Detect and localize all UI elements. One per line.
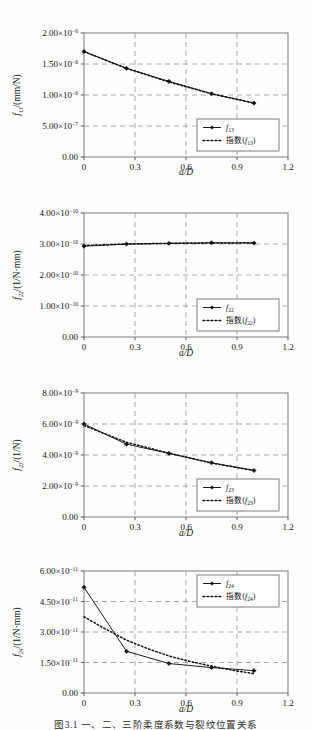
ytick-label: 8.00×10−9 — [42, 388, 78, 398]
ytick-label: 2.00×10−6 — [42, 28, 78, 38]
chart-f22: 00.30.60.91.20.001.00×10−102.00×10−103.0… — [0, 178, 312, 358]
xtick-label: 0.3 — [129, 342, 141, 352]
ytick-label: 3.00×10−11 — [40, 627, 79, 637]
y-axis-label: f13/(mm/N) — [12, 74, 24, 115]
ytick-label: 1.50×10−6 — [42, 59, 78, 69]
ytick-label: 4.00×10−9 — [42, 450, 78, 460]
ytick-label: 1.50×10−11 — [40, 657, 79, 667]
figure-container: 00.30.60.91.20.005.00×10−71.00×10−61.50×… — [0, 0, 312, 730]
plot-f23: 00.30.60.91.20.002.00×10−94.00×10−96.00×… — [0, 358, 312, 538]
chart-f13: 00.30.60.91.20.005.00×10−71.00×10−61.50×… — [0, 0, 312, 178]
legend-box — [197, 299, 279, 331]
plot-f24: 00.30.60.91.20.001.50×10−113.00×10−114.5… — [0, 538, 312, 716]
chart-f24: 00.30.60.91.20.001.50×10−113.00×10−114.5… — [0, 538, 312, 716]
x-axis-label: a/D — [179, 704, 193, 714]
figure-caption: 图3.1 一、二、三阶柔度系数与裂纹位置关系 — [0, 719, 312, 730]
data-point-marker — [167, 661, 171, 665]
legend-box — [197, 479, 279, 511]
series-line-data — [84, 424, 254, 471]
series-line-trend — [84, 426, 254, 471]
y-axis-label: f24/(1/N·mm) — [12, 607, 24, 656]
xtick-label: 0 — [82, 342, 87, 352]
x-axis-label: a/D — [179, 528, 193, 538]
ytick-label: 4.00×10−10 — [39, 208, 78, 218]
xtick-label: 0 — [82, 522, 87, 532]
xtick-label: 0 — [82, 162, 87, 172]
legend-box — [197, 119, 279, 151]
ytick-label: 0.00 — [62, 688, 78, 698]
ytick-label: 0.00 — [62, 512, 78, 522]
xtick-label: 0.9 — [231, 698, 243, 708]
data-point-marker — [252, 669, 256, 673]
xtick-label: 1.2 — [282, 698, 293, 708]
ytick-label: 2.00×10−10 — [39, 270, 78, 280]
legend-box — [197, 575, 279, 607]
plot-f13: 00.30.60.91.20.005.00×10−71.00×10−61.50×… — [0, 0, 312, 178]
xtick-label: 1.2 — [282, 342, 293, 352]
ytick-label: 2.00×10−9 — [42, 481, 78, 491]
xtick-label: 0.3 — [129, 162, 141, 172]
ytick-label: 1.00×10−6 — [42, 90, 78, 100]
ytick-label: 3.00×10−10 — [39, 239, 78, 249]
xtick-label: 0.9 — [231, 522, 243, 532]
xtick-label: 0 — [82, 698, 87, 708]
y-axis-label: f23/(1/N) — [12, 439, 24, 470]
xtick-label: 1.2 — [282, 162, 293, 172]
xtick-label: 0.3 — [129, 522, 141, 532]
xtick-label: 0.9 — [231, 162, 243, 172]
ytick-label: 0.00 — [62, 332, 78, 342]
x-axis-label: a/D — [179, 348, 193, 358]
ytick-label: 1.00×10−10 — [39, 301, 78, 311]
xtick-label: 0.9 — [231, 342, 243, 352]
ytick-label: 6.00×10−9 — [42, 419, 78, 429]
plot-f22: 00.30.60.91.20.001.00×10−102.00×10−103.0… — [0, 178, 312, 358]
y-axis-label: f22/(1/N·mm) — [12, 250, 24, 299]
x-axis-label: a/D — [179, 167, 193, 177]
ytick-label: 4.50×10−11 — [40, 596, 79, 606]
xtick-label: 1.2 — [282, 522, 293, 532]
ytick-label: 5.00×10−7 — [42, 121, 78, 131]
xtick-label: 0.3 — [129, 698, 141, 708]
ytick-label: 0.00 — [62, 152, 78, 162]
ytick-label: 6.00×10−11 — [40, 566, 79, 576]
chart-f23: 00.30.60.91.20.002.00×10−94.00×10−96.00×… — [0, 358, 312, 538]
